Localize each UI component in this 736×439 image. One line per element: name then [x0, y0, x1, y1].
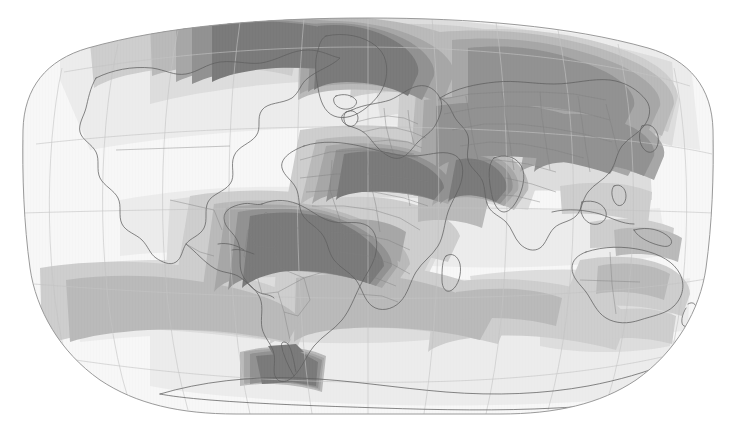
world-map-figure: [0, 0, 736, 439]
map-canvas: [0, 0, 736, 439]
map-body: [0, 0, 736, 439]
raster-texture: [0, 0, 736, 439]
